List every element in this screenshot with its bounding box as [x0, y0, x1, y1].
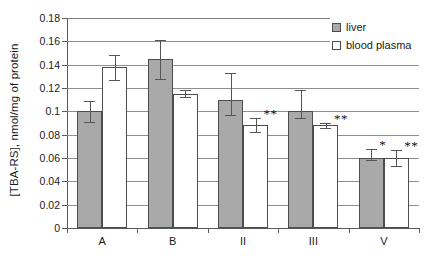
- y-axis-tick-label: 0: [30, 223, 60, 233]
- error-cap-lower: [84, 122, 95, 123]
- error-bar: [115, 55, 116, 80]
- bar-blood-plasma-V: [384, 158, 409, 228]
- error-cap-upper: [295, 90, 306, 91]
- error-cap-lower: [295, 118, 306, 119]
- error-cap-upper: [225, 73, 236, 74]
- error-cap-lower: [366, 160, 377, 161]
- y-axis-tick-label-wrap: 0: [26, 223, 60, 233]
- y-axis-tick-label: 0.02: [30, 200, 60, 210]
- significance-marker: *: [379, 139, 386, 150]
- x-axis-tick: [419, 228, 420, 233]
- y-axis-tick-label: 0.16: [30, 36, 60, 46]
- bar-liver-B: [148, 59, 173, 228]
- error-cap-lower: [391, 166, 402, 167]
- gridline: [67, 65, 419, 66]
- error-cap-lower: [320, 128, 331, 129]
- legend-item-liver: liver: [330, 18, 430, 36]
- x-axis-tick: [349, 228, 350, 233]
- x-axis-category-label-II: II: [213, 235, 273, 247]
- chart-legend: liverblood plasma: [330, 16, 430, 57]
- y-axis-tick-label-wrap: 0.02: [26, 200, 60, 210]
- y-axis-tick-label: 0.18: [30, 13, 60, 23]
- x-axis-category-label-B: B: [143, 235, 203, 247]
- error-cap-upper: [366, 149, 377, 150]
- bar-liver-V: [359, 158, 384, 228]
- x-axis-category-label-V: V: [354, 235, 414, 247]
- y-axis-tick-label-wrap: 0.14: [26, 60, 60, 70]
- error-cap-upper: [155, 40, 166, 41]
- x-axis-tick: [278, 228, 279, 233]
- error-cap-upper: [84, 101, 95, 102]
- error-bar: [90, 101, 91, 122]
- y-axis-tick-label-wrap: 0.18: [26, 13, 60, 23]
- bar-blood-plasma-B: [173, 94, 198, 228]
- error-cap-upper: [320, 123, 331, 124]
- error-bar: [185, 90, 186, 97]
- y-axis-title: [TBA-RS], nmol/mg of protein: [0, 0, 26, 240]
- error-bar: [371, 149, 372, 161]
- error-cap-lower: [109, 80, 120, 81]
- legend-label: liver: [346, 21, 366, 33]
- error-bar: [231, 73, 232, 115]
- x-axis-tick: [137, 228, 138, 233]
- error-bar: [256, 118, 257, 132]
- y-axis-tick-label-wrap: 0.12: [26, 83, 60, 93]
- x-axis-tick: [208, 228, 209, 233]
- y-axis-tick-label: 0.04: [30, 176, 60, 186]
- bar-liver-II: [218, 100, 243, 228]
- x-axis-tick: [67, 228, 68, 233]
- y-axis-tick-label: 0.14: [30, 60, 60, 70]
- error-bar: [160, 40, 161, 79]
- error-cap-lower: [180, 97, 191, 98]
- error-cap-upper: [250, 118, 261, 119]
- y-axis-tick-label: 0.08: [30, 130, 60, 140]
- y-axis-title-text: [TBA-RS], nmol/mg of protein: [7, 44, 19, 197]
- bar-liver-III: [288, 111, 313, 228]
- y-axis-tick-label-wrap: 0.04: [26, 176, 60, 186]
- y-axis-tick-label: 0.06: [30, 153, 60, 163]
- y-axis-tick-label-wrap: 0.16: [26, 36, 60, 46]
- x-axis-category-label-III: III: [283, 235, 343, 247]
- bar-chart: [TBA-RS], nmol/mg of protein 0.180.160.1…: [0, 0, 436, 259]
- y-axis-tick-label-wrap: 0.06: [26, 153, 60, 163]
- legend-item-blood-plasma: blood plasma: [330, 36, 430, 54]
- error-cap-lower: [250, 132, 261, 133]
- error-cap-upper: [391, 150, 402, 151]
- y-axis-tick-label: 0.12: [30, 83, 60, 93]
- y-axis-tick-label-wrap: 0.1: [26, 106, 60, 116]
- x-axis-category-label-A: A: [72, 235, 132, 247]
- y-axis-tick-label-wrap: 0.08: [26, 130, 60, 140]
- y-axis-tick-label: 0.1: [30, 106, 60, 116]
- legend-label: blood plasma: [346, 39, 411, 51]
- bar-liver-A: [77, 111, 102, 228]
- error-bar: [396, 150, 397, 166]
- significance-marker: **: [264, 108, 278, 119]
- legend-swatch-plasma: [332, 41, 341, 50]
- error-cap-lower: [155, 79, 166, 80]
- error-cap-upper: [109, 55, 120, 56]
- legend-swatch-liver: [332, 23, 341, 32]
- significance-marker: **: [334, 113, 348, 124]
- bar-blood-plasma-II: [243, 125, 268, 228]
- error-cap-upper: [180, 90, 191, 91]
- error-cap-lower: [225, 115, 236, 116]
- error-bar: [301, 90, 302, 118]
- x-axis-line: [67, 228, 420, 229]
- bar-blood-plasma-A: [102, 67, 127, 228]
- bar-blood-plasma-III: [313, 125, 338, 228]
- significance-marker: **: [404, 140, 418, 151]
